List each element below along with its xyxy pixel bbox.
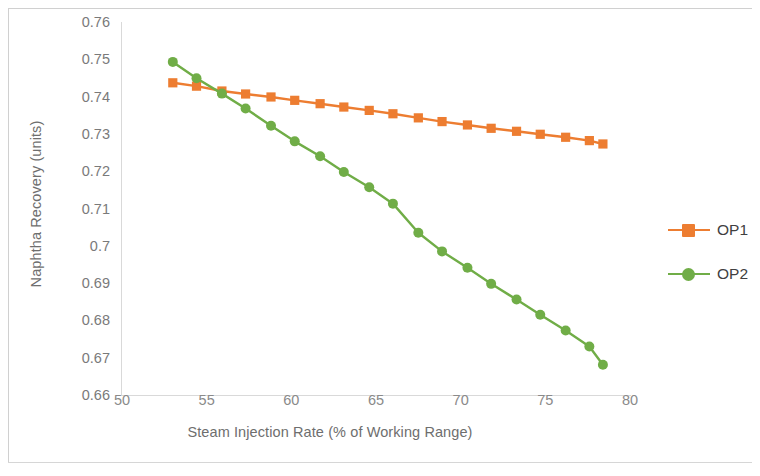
y-tick-label: 0.71 <box>46 202 110 216</box>
data-point-op1 <box>463 120 472 129</box>
y-axis-tick-labels: 0.660.670.680.690.70.710.720.730.740.750… <box>46 0 110 476</box>
data-point-op1 <box>437 117 446 126</box>
chart-figure: 0.660.670.680.690.70.710.720.730.740.750… <box>0 0 760 476</box>
y-tick-label: 0.7 <box>46 239 110 253</box>
legend-label-op2: OP2 <box>717 265 748 283</box>
y-tick-label: 0.68 <box>46 313 110 327</box>
data-point-op2 <box>561 325 571 335</box>
data-point-op2 <box>315 151 325 161</box>
data-point-op2 <box>535 310 545 320</box>
data-point-op1 <box>241 89 250 98</box>
data-point-op1 <box>512 127 521 136</box>
legend-marker-op1 <box>682 224 695 237</box>
figure-border-bottom <box>8 462 752 463</box>
data-point-op1 <box>598 139 607 148</box>
y-tick-label: 0.76 <box>46 15 110 29</box>
plot-area <box>122 22 630 395</box>
data-point-op2 <box>266 121 276 131</box>
data-point-op2 <box>486 279 496 289</box>
data-point-op2 <box>339 167 349 177</box>
data-point-op2 <box>598 360 608 370</box>
data-point-op2 <box>364 182 374 192</box>
data-point-op2 <box>388 199 398 209</box>
data-series-svg <box>122 22 630 395</box>
data-point-op2 <box>413 228 423 238</box>
data-point-op1 <box>414 113 423 122</box>
data-point-op1 <box>168 78 177 87</box>
y-tick-label: 0.73 <box>46 127 110 141</box>
y-tick-label: 0.75 <box>46 52 110 66</box>
data-point-op2 <box>241 104 251 114</box>
data-point-op2 <box>437 246 447 256</box>
data-point-op2 <box>290 136 300 146</box>
data-point-op2 <box>217 89 227 99</box>
figure-border-top <box>8 8 752 9</box>
data-point-op1 <box>339 102 348 111</box>
legend-swatch-op2 <box>668 267 710 281</box>
legend-item-op2[interactable]: OP2 <box>668 252 760 296</box>
data-point-op2 <box>168 57 178 67</box>
legend-marker-op2 <box>682 268 695 281</box>
data-point-op1 <box>536 130 545 139</box>
y-tick-label: 0.72 <box>46 164 110 178</box>
legend-label-op1: OP1 <box>717 221 748 239</box>
y-tick-label: 0.67 <box>46 351 110 365</box>
figure-border-left <box>8 8 9 463</box>
data-point-op1 <box>487 124 496 133</box>
data-point-op1 <box>561 133 570 142</box>
data-point-op1 <box>388 109 397 118</box>
y-axis-title: Naphtha Recovery (units) <box>28 84 44 324</box>
data-point-op2 <box>584 342 594 352</box>
data-point-op1 <box>585 136 594 145</box>
data-point-op1 <box>365 106 374 115</box>
data-point-op1 <box>316 99 325 108</box>
legend-item-op1[interactable]: OP1 <box>668 208 760 252</box>
y-tick-label: 0.66 <box>46 388 110 402</box>
legend-swatch-op1 <box>668 223 710 237</box>
data-point-op1 <box>266 92 275 101</box>
data-point-op2 <box>512 295 522 305</box>
data-point-op1 <box>290 96 299 105</box>
chart-legend: OP1 OP2 <box>668 208 760 296</box>
y-tick-label: 0.69 <box>46 276 110 290</box>
y-tick-label: 0.74 <box>46 90 110 104</box>
data-point-op2 <box>192 73 202 83</box>
x-axis-title: Steam Injection Rate (% of Working Range… <box>0 424 660 440</box>
data-point-op2 <box>462 263 472 273</box>
